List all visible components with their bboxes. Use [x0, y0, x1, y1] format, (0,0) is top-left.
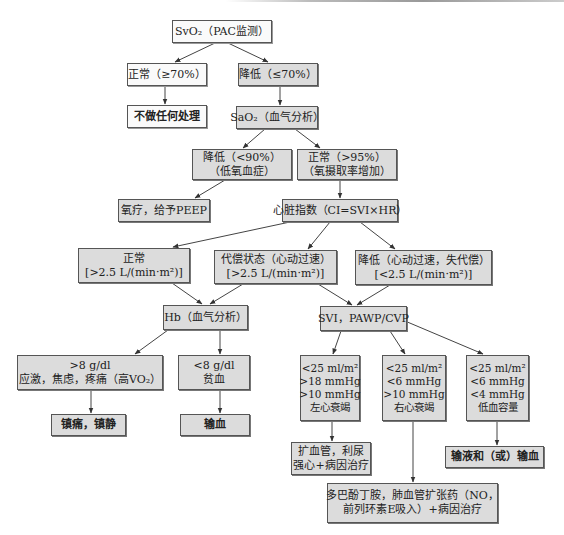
node-text: <25 ml/m² [469, 362, 526, 375]
node-text: >18 mmHg [299, 375, 360, 388]
node-text: 强心+病因治疗 [293, 459, 368, 473]
node-text: <6 mmHg [387, 375, 442, 388]
node-lv-failure: <25 ml/m² >18 mmHg >10 mmHg 左心衰竭 [300, 355, 360, 421]
node-text: 正常（>95%） [308, 151, 386, 165]
node-text: SVI，PAWP/CVP [318, 312, 409, 326]
node-text: SaO₂（血气分析） [230, 111, 324, 125]
node-text: 右心衰竭 [394, 401, 434, 414]
node-text: >10 mmHg [299, 388, 360, 401]
node-ci-low: 降低（心动过速，失代偿） [<2.5 L/(min·m²)] [355, 250, 492, 285]
node-text: 贫血 [203, 373, 225, 387]
node-text: 降低（≤70%） [239, 68, 317, 82]
node-svo2: SvO₂（PAC监测） [172, 20, 272, 43]
node-svo2-normal: 正常（≥70%） [127, 63, 207, 86]
node-text: 应激，焦虑，疼痛（高VO₂） [19, 373, 161, 387]
node-text: 代偿状态（心动过速） [221, 253, 331, 267]
node-text: 多巴酚丁胺，肺血管扩张药（NO， [326, 489, 499, 503]
node-text: <8 g/dl [193, 359, 234, 373]
node-ci-compensated: 代偿状态（心动过速） [>2.5 L/(min·m²)] [214, 250, 337, 284]
node-text: Hb（血气分析） [164, 311, 247, 325]
node-sao2: SaO₂（血气分析） [236, 106, 318, 129]
node-ci-normal: 正常 [>2.5 L/(min·m²)] [78, 248, 190, 283]
node-text: （氧摄取率增加） [303, 165, 391, 179]
node-transfusion: 输血 [180, 414, 250, 436]
node-svi: SVI，PAWP/CVP [320, 306, 407, 331]
node-text: 前列环素E吸入）+病因治疗 [343, 503, 481, 517]
node-text: >10 mmHg [383, 388, 444, 401]
node-text: 心脏指数（CI=SVI×HR） [273, 204, 408, 218]
node-lv-treatment: 扩血管，利尿 强心+病因治疗 [291, 442, 371, 475]
node-text: 降低（心动过速，失代偿） [358, 254, 490, 268]
node-text: 低血容量 [478, 401, 518, 414]
node-text: [>2.5 L/(min·m²)] [85, 266, 183, 280]
node-text: 镇痛，镇静 [61, 418, 116, 432]
node-text: <25 ml/m² [386, 362, 443, 375]
node-text: 左心衰竭 [310, 401, 350, 414]
node-text: [<2.5 L/(min·m²)] [375, 268, 473, 282]
node-oxygen-therapy: 氧疗，给予PEEP [118, 199, 210, 222]
node-no-treatment: 不做任何处理 [127, 105, 207, 128]
node-analgesia: 镇痛，镇静 [51, 414, 126, 436]
node-text: <25 ml/m² [302, 362, 359, 375]
node-text: 正常 [123, 252, 145, 266]
node-svo2-low: 降低（≤70%） [238, 63, 318, 86]
node-rv-failure: <25 ml/m² <6 mmHg >10 mmHg 右心衰竭 [382, 355, 446, 421]
node-text: 输血 [204, 418, 226, 432]
node-text: >8 g/dl [69, 359, 110, 373]
node-hypovolemia: <25 ml/m² <6 mmHg <4 mmHg 低血容量 [466, 355, 529, 421]
node-fluid-transfusion: 输液和（或）输血 [445, 446, 544, 468]
node-text: （低氧血症） [209, 165, 275, 179]
node-hb-low: <8 g/dl 贫血 [178, 355, 250, 390]
node-text: <4 mmHg [470, 388, 525, 401]
node-sao2-low: 降低（<90%） （低氧血症） [192, 149, 292, 180]
node-hb: Hb（血气分析） [163, 305, 248, 330]
node-rv-treatment: 多巴酚丁胺，肺血管扩张药（NO， 前列环素E吸入）+病因治疗 [327, 483, 498, 523]
node-text: 不做任何处理 [134, 110, 200, 124]
node-text: 氧疗，给予PEEP [121, 204, 207, 218]
node-sao2-normal: 正常（>95%） （氧摄取率增加） [297, 149, 397, 180]
node-text: 正常（≥70%） [128, 68, 206, 82]
node-text: SvO₂（PAC监测） [175, 25, 269, 39]
node-text: 扩血管，利尿 [298, 445, 364, 459]
node-text: [>2.5 L/(min·m²)] [227, 267, 325, 281]
node-hb-high: >8 g/dl 应激，焦虑，疼痛（高VO₂） [17, 355, 163, 390]
node-text: 输液和（或）输血 [451, 450, 539, 464]
node-cardiac-index: 心脏指数（CI=SVI×HR） [282, 199, 398, 222]
node-text: 降低（<90%） [203, 151, 281, 165]
node-text: <6 mmHg [470, 375, 525, 388]
